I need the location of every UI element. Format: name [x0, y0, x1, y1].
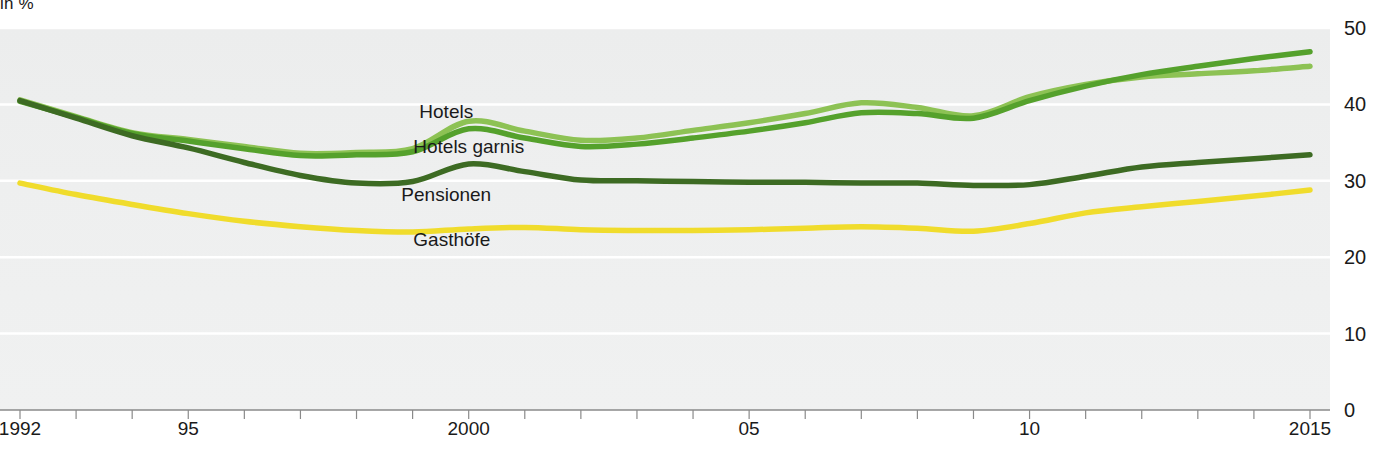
series-label-hotels: Hotels	[419, 101, 473, 123]
x-axis-label: 10	[1019, 418, 1040, 440]
series-label-hotels-garnis: Hotels garnis	[413, 136, 524, 158]
y-axis-label: 10	[1344, 322, 1366, 345]
y-axis-label: 50	[1344, 17, 1366, 40]
x-axis-label: 1992	[0, 418, 41, 440]
series-label-gasthöfe: Gasthöfe	[413, 229, 490, 251]
y-axis-label: 30	[1344, 169, 1366, 192]
x-axis-ticks	[20, 410, 1310, 419]
plot-area	[0, 28, 1330, 410]
x-axis-label: 2015	[1289, 418, 1331, 440]
chart-container: in % 01020304050 199295200005102015 Hote…	[0, 0, 1380, 461]
series-label-pensionen: Pensionen	[401, 184, 491, 206]
x-axis-label: 05	[739, 418, 760, 440]
unit-label: in %	[0, 0, 34, 14]
y-axis-label: 40	[1344, 93, 1366, 116]
y-axis-label: 0	[1344, 399, 1355, 422]
y-axis-label: 20	[1344, 246, 1366, 269]
x-axis-label: 95	[178, 418, 199, 440]
x-axis-label: 2000	[448, 418, 490, 440]
